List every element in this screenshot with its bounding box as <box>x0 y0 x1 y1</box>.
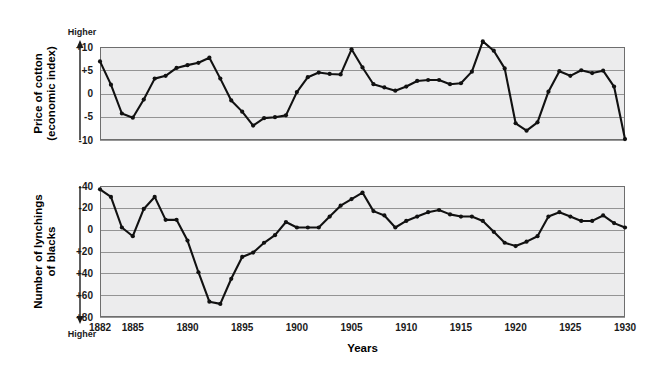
data-point <box>262 116 266 120</box>
data-point <box>349 47 353 51</box>
data-point <box>524 240 528 244</box>
data-point <box>273 233 277 237</box>
data-point <box>448 82 452 86</box>
data-point <box>590 219 594 223</box>
data-point <box>404 84 408 88</box>
data-point <box>481 219 485 223</box>
data-point <box>503 66 507 70</box>
data-point <box>426 210 430 214</box>
data-point <box>503 241 507 245</box>
data-point <box>164 218 168 222</box>
data-point <box>185 63 189 67</box>
data-point <box>470 214 474 218</box>
x-tick-label: 1915 <box>450 322 473 333</box>
data-point <box>492 49 496 53</box>
data-point <box>568 214 572 218</box>
data-point <box>207 300 211 304</box>
data-point <box>142 97 146 101</box>
x-tick-label: 1910 <box>395 322 418 333</box>
data-point <box>109 195 113 199</box>
data-point <box>109 83 113 87</box>
data-point <box>153 77 157 81</box>
y-tick-label: +60 <box>76 290 93 301</box>
data-point <box>514 121 518 125</box>
plot-background <box>100 186 625 317</box>
y-tick-label: +40 <box>76 268 93 279</box>
y-axis-title-line: Price of cotton <box>32 53 44 134</box>
higher-label-top: Higher <box>68 27 97 37</box>
y-tick-label: +20 <box>76 246 93 257</box>
data-point <box>546 214 550 218</box>
x-tick-label: 1890 <box>176 322 199 333</box>
data-point <box>426 78 430 82</box>
data-point <box>273 115 277 119</box>
data-point <box>240 255 244 259</box>
data-point <box>317 225 321 229</box>
x-tick-label: 1920 <box>505 322 528 333</box>
data-point <box>481 39 485 43</box>
data-point <box>557 69 561 73</box>
x-tick-label: 1885 <box>122 322 145 333</box>
data-point <box>459 81 463 85</box>
data-point <box>360 190 364 194</box>
data-point <box>612 221 616 225</box>
data-point <box>229 277 233 281</box>
x-tick-label: 1905 <box>340 322 363 333</box>
data-point <box>120 225 124 229</box>
data-point <box>196 270 200 274</box>
data-point <box>218 77 222 81</box>
data-point <box>546 90 550 94</box>
data-point <box>437 208 441 212</box>
x-tick-label: 1925 <box>559 322 582 333</box>
data-point <box>174 218 178 222</box>
data-point <box>579 68 583 72</box>
data-point <box>131 234 135 238</box>
chart-panel-cotton-price: +10+50-5-10Price of cotton(economic inde… <box>32 27 628 146</box>
data-point <box>185 238 189 242</box>
data-point <box>306 225 310 229</box>
data-point <box>153 195 157 199</box>
data-point <box>349 197 353 201</box>
data-point <box>382 213 386 217</box>
y-axis-ticks: +10+50-5-10 <box>76 42 93 146</box>
data-point <box>470 70 474 74</box>
plot-background <box>100 47 625 140</box>
y-tick-label: -5 <box>84 111 93 122</box>
data-point <box>612 84 616 88</box>
data-point <box>535 234 539 238</box>
y-tick-label: +5 <box>82 65 94 76</box>
data-point <box>240 110 244 114</box>
data-point <box>437 78 441 82</box>
data-point <box>382 85 386 89</box>
data-point <box>142 207 146 211</box>
data-point <box>131 116 135 120</box>
data-point <box>284 113 288 117</box>
data-point <box>448 212 452 216</box>
y-tick-label: 0 <box>87 224 93 235</box>
figure-container: +10+50-5-10Price of cotton(economic inde… <box>0 0 646 379</box>
data-point <box>371 209 375 213</box>
y-tick-label: -20 <box>79 202 94 213</box>
data-point <box>164 74 168 78</box>
data-point <box>459 214 463 218</box>
x-tick-label: 1900 <box>286 322 309 333</box>
data-point <box>328 72 332 76</box>
data-point <box>207 56 211 60</box>
data-point <box>295 225 299 229</box>
data-point <box>295 90 299 94</box>
data-point <box>306 75 310 79</box>
data-point <box>218 302 222 306</box>
data-point <box>579 219 583 223</box>
y-tick-label: -40 <box>79 181 94 192</box>
data-point <box>339 72 343 76</box>
data-point <box>393 225 397 229</box>
data-point <box>360 65 364 69</box>
x-axis-ticks: 1882188518901895190019051910191519201925… <box>89 322 637 333</box>
y-axis-ticks: -40-200+20+40+60+80 <box>76 181 93 323</box>
data-point <box>514 244 518 248</box>
data-point <box>590 71 594 75</box>
y-tick-label: -10 <box>79 135 94 146</box>
data-point <box>251 123 255 127</box>
data-point <box>251 250 255 254</box>
y-axis-title-line: Number of lynchings <box>32 194 44 308</box>
